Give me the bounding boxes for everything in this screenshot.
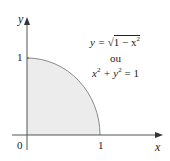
y-axis-label: y	[18, 13, 23, 25]
y-tick-label: 1	[17, 52, 23, 63]
plot-svg	[0, 0, 170, 161]
x-tick-label: 1	[98, 140, 104, 151]
eq1-lhs: y =	[90, 36, 108, 48]
eq1-radicand-text: 1 − x	[114, 36, 137, 48]
origin-label: 0	[17, 140, 23, 151]
eq1-exp: 2	[137, 35, 141, 43]
equation-line-1: y = √1 − x2	[90, 36, 140, 48]
eq1-radicand: 1 − x2	[114, 35, 140, 48]
shaded-region	[27, 58, 100, 135]
eq2-plus-y: + y	[100, 67, 118, 79]
x-axis-label: x	[155, 141, 160, 153]
y-axis-arrow-icon	[24, 17, 30, 25]
quarter-circle-figure: y 1 0 1 x y = √1 − x2 ou x2 + y2 = 1	[0, 0, 170, 161]
eq2-rhs: = 1	[122, 67, 139, 79]
x-axis-arrow-icon	[155, 132, 163, 138]
equation-connector: ou	[110, 53, 121, 64]
equation-line-2: x2 + y2 = 1	[92, 67, 139, 79]
